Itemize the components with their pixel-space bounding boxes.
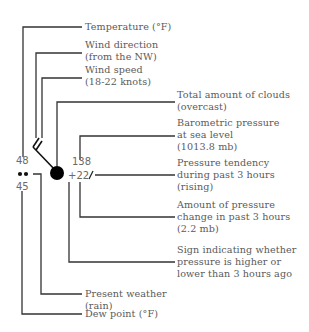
- rain-dot-icon: [18, 172, 22, 176]
- pressure-tendency-rising-icon: [89, 171, 93, 179]
- label-wind-speed: Wind speed (18-22 knots): [85, 64, 151, 88]
- label-pressure-tendency: Pressure tendency during past 3 hours (r…: [177, 157, 275, 194]
- temperature-value: 48: [16, 155, 29, 166]
- present-weather-leader: [33, 174, 82, 294]
- temperature-leader: [23, 27, 82, 157]
- wind-barb-icon: [33, 138, 57, 172]
- rain-dot-icon: [24, 172, 28, 176]
- station-model-diagram: 48 45 138 +22 Temperature (°F) Wind dire…: [0, 0, 309, 332]
- label-barometric-pressure: Barometric pressure at sea level (1013.8…: [177, 117, 279, 154]
- label-temperature: Temperature (°F): [85, 21, 171, 33]
- label-dew-point: Dew point (°F): [85, 308, 158, 320]
- label-wind-direction: Wind direction (from the NW): [85, 39, 158, 63]
- pressure-value: 138: [72, 156, 91, 167]
- label-clouds: Total amount of clouds (overcast): [177, 89, 290, 113]
- pressure-change-value: +22: [68, 170, 89, 181]
- pressure-sign-leader: [69, 182, 175, 262]
- dew-point-value: 45: [16, 181, 29, 192]
- pressure-amount-leader: [80, 182, 175, 217]
- label-pressure-amount: Amount of pressure change in past 3 hour…: [177, 199, 290, 236]
- wind-direction-leader: [36, 53, 82, 138]
- label-pressure-sign: Sign indicating whether pressure is high…: [177, 244, 297, 281]
- wind-speed-leader: [42, 78, 82, 138]
- barometric-leader: [80, 136, 175, 160]
- cloud-cover-circle-icon: [50, 166, 64, 180]
- dew-point-leader: [22, 191, 82, 314]
